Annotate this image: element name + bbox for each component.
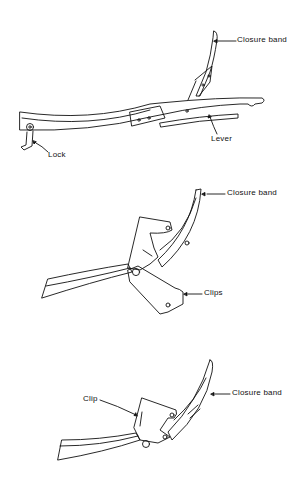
top-closure-band-label: Closure band [237,35,287,44]
middle-panel-drawing [42,189,225,314]
bottom-clip-label: Clip [83,394,98,403]
bottom-closure-band-label: Closure band [232,388,282,397]
top-lock-label: Lock [48,150,66,159]
diagram-canvas [0,0,305,482]
middle-clips-label: Clips [204,288,223,297]
middle-closure-band-label: Closure band [227,188,277,197]
top-lever-label: Lever [211,134,232,143]
bottom-panel-drawing [58,360,230,460]
